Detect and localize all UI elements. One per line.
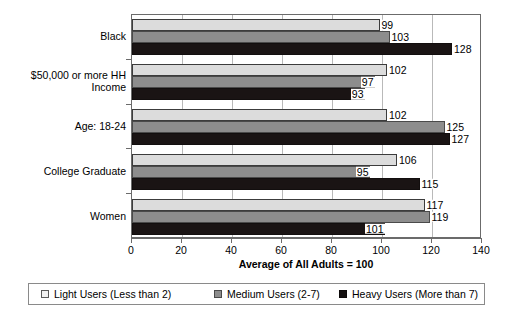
- y-axis-tick-label: Women: [4, 210, 126, 222]
- bar-light[interactable]: 102: [132, 64, 387, 76]
- bar-row: 125: [132, 121, 482, 133]
- bar-value-label: 102: [388, 110, 408, 121]
- bar-value-label: 128: [453, 44, 473, 55]
- chart-canvas: Black$50,000 or more HHIncomeAge: 18-24C…: [0, 0, 505, 315]
- bar-light[interactable]: 102: [132, 109, 387, 121]
- bar-group: 1029793: [132, 60, 480, 105]
- bar-value-label: 93: [351, 89, 365, 100]
- x-axis-tick-label: 100: [361, 244, 401, 256]
- bar-value-label: 125: [446, 122, 466, 133]
- x-axis-tick: [481, 238, 482, 243]
- bar-heavy[interactable]: 93: [132, 88, 365, 100]
- bar-value-label: 95: [356, 167, 370, 178]
- bar-value-label: 106: [398, 155, 418, 166]
- bar-group: 99103128: [132, 15, 480, 60]
- x-axis-tick: [381, 238, 382, 243]
- x-axis-tick: [231, 238, 232, 243]
- x-axis-tick: [431, 238, 432, 243]
- bar-medium[interactable]: 97: [132, 76, 375, 88]
- x-axis-tick-label: 0: [111, 244, 151, 256]
- y-axis-label-group: Black$50,000 or more HHIncomeAge: 18-24C…: [0, 14, 126, 238]
- bar-value-label: 101: [365, 223, 385, 234]
- x-axis-line: [131, 238, 481, 239]
- bar-medium[interactable]: 103: [132, 31, 390, 43]
- x-axis-tick-label: 140: [461, 244, 501, 256]
- bar-row: 128: [132, 43, 482, 55]
- x-axis-tick: [331, 238, 332, 243]
- bar-group: 10695115: [132, 149, 480, 194]
- x-axis-tick-label: 120: [411, 244, 451, 256]
- legend-label: Heavy Users (More than 7): [352, 288, 478, 300]
- bar-row: 103: [132, 31, 482, 43]
- bar-medium[interactable]: 95: [132, 166, 370, 178]
- x-axis-tick: [281, 238, 282, 243]
- bar-value-label: 99: [381, 20, 395, 31]
- bar-row: 119: [132, 211, 482, 223]
- x-axis-tick: [181, 238, 182, 243]
- bar-medium[interactable]: 119: [132, 211, 430, 223]
- bar-row: 115: [132, 178, 482, 190]
- bar-row: 99: [132, 19, 482, 31]
- x-axis-tick: [131, 238, 132, 243]
- bar-row: 93: [132, 88, 482, 100]
- bar-heavy[interactable]: 115: [132, 178, 420, 190]
- x-axis-title: Average of All Adults = 100: [131, 258, 481, 271]
- y-axis-tick-label-line: Income: [4, 81, 126, 93]
- bar-value-label: 103: [391, 32, 411, 43]
- bar-row: 101: [132, 223, 482, 235]
- bar-group: 102125127: [132, 105, 480, 150]
- medium-users-swatch-icon: [214, 290, 222, 298]
- y-axis-tick-label: College Graduate: [4, 165, 126, 177]
- y-axis-tick-label: Black: [4, 30, 126, 42]
- x-axis-tick-label: 60: [261, 244, 301, 256]
- bar-row: 102: [132, 109, 482, 121]
- legend-item-heavy-users[interactable]: Heavy Users (More than 7): [339, 288, 478, 300]
- bar-row: 117: [132, 199, 482, 211]
- bar-group: 117119101: [132, 194, 480, 239]
- light-users-swatch-icon: [41, 290, 49, 298]
- bar-value-label: 102: [388, 65, 408, 76]
- y-axis-tick-label: Age: 18-24: [4, 120, 126, 132]
- x-axis-tick-label: 80: [311, 244, 351, 256]
- bar-row: 97: [132, 76, 482, 88]
- legend: Light Users (Less than 2) Medium Users (…: [28, 283, 485, 305]
- heavy-users-swatch-icon: [339, 290, 347, 298]
- bar-value-label: 119: [431, 211, 450, 222]
- bar-row: 106: [132, 154, 482, 166]
- bar-value-label: 97: [361, 77, 375, 88]
- bar-row: 127: [132, 133, 482, 145]
- bar-light[interactable]: 99: [132, 19, 380, 31]
- y-axis-tick-label-line: Black: [4, 30, 126, 42]
- bar-value-label: 117: [426, 199, 445, 210]
- y-axis-tick-label-line: $50,000 or more HH: [4, 69, 126, 81]
- bar-heavy[interactable]: 101: [132, 223, 385, 235]
- x-axis-tick-label: 40: [211, 244, 251, 256]
- y-axis-tick-label-line: Age: 18-24: [4, 120, 126, 132]
- bar-heavy[interactable]: 127: [132, 133, 450, 145]
- legend-label: Medium Users (2-7): [227, 288, 320, 300]
- bar-light[interactable]: 117: [132, 199, 425, 211]
- legend-item-medium-users[interactable]: Medium Users (2-7): [214, 288, 320, 300]
- bar-heavy[interactable]: 128: [132, 43, 452, 55]
- bar-light[interactable]: 106: [132, 154, 397, 166]
- bar-row: 95: [132, 166, 482, 178]
- legend-item-light-users[interactable]: Light Users (Less than 2): [41, 288, 171, 300]
- bar-value-label: 127: [451, 134, 471, 145]
- legend-label: Light Users (Less than 2): [54, 288, 171, 300]
- y-axis-tick-label-line: Women: [4, 210, 126, 222]
- plot-area: 9910312810297931021251271069511511711910…: [131, 14, 481, 238]
- x-axis-tick-label: 20: [161, 244, 201, 256]
- bar-value-label: 115: [421, 179, 440, 190]
- bar-medium[interactable]: 125: [132, 121, 445, 133]
- bar-row: 102: [132, 64, 482, 76]
- y-axis-tick-label: $50,000 or more HHIncome: [4, 69, 126, 93]
- y-axis-tick-label-line: College Graduate: [4, 165, 126, 177]
